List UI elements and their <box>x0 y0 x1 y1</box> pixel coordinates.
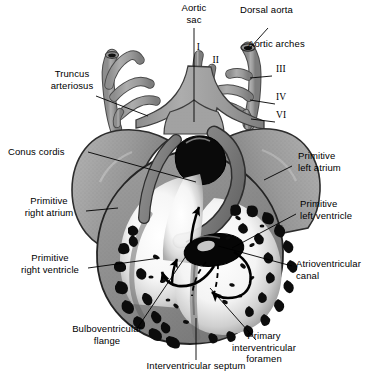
label-arch-ii: II <box>203 55 219 67</box>
label-conus-cordis: Conus cordis <box>8 146 104 158</box>
heart-body <box>72 129 320 349</box>
label-primitive-right-atrium: Primitive right atrium <box>8 195 90 218</box>
label-arch-i: I <box>186 42 200 54</box>
label-primitive-left-atrium: Primitive left atrium <box>298 150 378 173</box>
label-aortic-arches: Aortic arches <box>248 38 370 50</box>
label-arch-vi: VI <box>276 110 298 122</box>
label-aortic-sac: Aortic sac <box>160 2 228 25</box>
label-dorsal-aorta: Dorsal aorta <box>240 4 360 16</box>
left-aortic-arches <box>109 55 156 124</box>
label-bulboventricular-flange: Bulboventricular flange <box>52 323 162 346</box>
label-primitive-left-ventricle: Primitive left ventricle <box>300 198 378 221</box>
label-arch-iv: IV <box>276 92 298 104</box>
label-atrioventricular-canal: Atrioventricular canal <box>296 258 378 281</box>
aortic-arch-system <box>105 44 264 138</box>
label-truncus-arteriosus: Truncus arteriosus <box>34 68 110 91</box>
label-arch-iii: III <box>276 64 298 76</box>
label-primary-interventricular-foramen: Primary interventricular foramen <box>212 330 316 365</box>
label-primitive-right-ventricle: Primitive right ventricle <box>8 252 92 275</box>
